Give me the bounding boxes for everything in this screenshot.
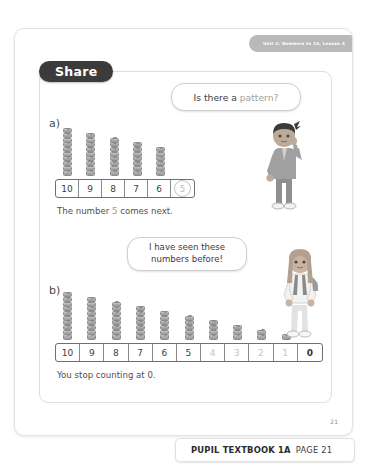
- cube-tower: [209, 320, 218, 339]
- cube-tower: [233, 325, 242, 339]
- cube: [209, 334, 218, 339]
- cube-tower: [257, 330, 266, 339]
- number-cell: 9: [80, 344, 104, 361]
- cube-tower: [185, 316, 194, 339]
- girl-character: [271, 247, 329, 343]
- unit-lesson-tab: Unit 1: Numbers to 10, Lesson 4: [249, 35, 353, 52]
- number-cell: 4: [201, 344, 225, 361]
- cube-tower: [112, 302, 121, 340]
- cube-tower: [63, 292, 72, 339]
- part-b-caption: You stop counting at 0.: [57, 370, 156, 380]
- cube: [63, 334, 72, 339]
- number-cell: 5: [171, 180, 194, 197]
- share-section-title: Share: [55, 64, 97, 79]
- number-cell: 6: [153, 344, 177, 361]
- number-cell: 7: [125, 180, 148, 197]
- share-section-heading: Share: [39, 61, 113, 82]
- cube: [257, 334, 266, 339]
- number-cell: 9: [79, 180, 102, 197]
- speech-bubble-pattern: Is there a pattern?: [171, 83, 301, 111]
- number-cell: 7: [129, 344, 153, 361]
- cube-tower: [110, 138, 119, 176]
- number-cell: 8: [102, 180, 125, 197]
- footer-book-label: PUPIL TEXTBOOK 1A: [191, 445, 291, 455]
- cube: [160, 334, 169, 339]
- cube-tower: [156, 147, 165, 175]
- part-a-caption: The number 5 comes next.: [57, 206, 173, 216]
- number-cell: 3: [225, 344, 249, 361]
- part-a-number-track: 1098765: [55, 179, 195, 198]
- part-a-cube-towers: [59, 109, 199, 175]
- cube: [63, 170, 72, 175]
- number-cell: 5: [177, 344, 201, 361]
- cube-tower: [63, 128, 72, 175]
- footer-bar: PUPIL TEXTBOOK 1A PAGE 21: [175, 438, 355, 462]
- cube-tower: [136, 306, 145, 339]
- cube: [112, 334, 121, 339]
- cube-tower: [160, 311, 169, 339]
- boy-character: [253, 121, 315, 213]
- circled-number: 5: [174, 180, 191, 197]
- cube: [185, 334, 194, 339]
- cube: [110, 170, 119, 175]
- cube: [156, 170, 165, 175]
- cube-tower: [86, 133, 95, 175]
- number-cell: 10: [56, 344, 80, 361]
- number-cell: 1: [274, 344, 298, 361]
- textbook-page: Unit 1: Numbers to 10, Lesson 4 Share a)…: [14, 28, 353, 436]
- page-number: 21: [330, 418, 338, 425]
- number-cell: 0: [298, 344, 322, 361]
- cube-tower: [87, 297, 96, 339]
- bubble-numbers-text: I have seen thesenumbers before!: [149, 242, 225, 265]
- number-cell: 2: [249, 344, 273, 361]
- cube: [86, 170, 95, 175]
- part-b-number-track: 109876543210: [55, 343, 323, 362]
- cube: [233, 334, 242, 339]
- number-cell: 6: [148, 180, 171, 197]
- cube: [136, 334, 145, 339]
- cube: [133, 170, 142, 175]
- number-cell: 8: [104, 344, 128, 361]
- speech-bubble-numbers: I have seen thesenumbers before!: [127, 237, 247, 271]
- cube-tower: [133, 142, 142, 175]
- number-cell: 10: [56, 180, 79, 197]
- cube: [87, 334, 96, 339]
- footer-page-label: PAGE 21: [296, 445, 333, 455]
- bubble-pattern-text: Is there a pattern?: [194, 92, 279, 103]
- unit-lesson-label: Unit 1: Numbers to 10, Lesson 4: [263, 41, 345, 46]
